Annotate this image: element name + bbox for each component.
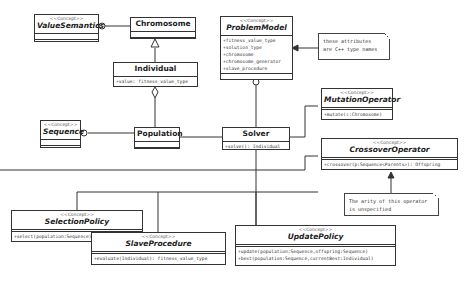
operations-section: +evaluate(Individual): fitness_value_typ… [92,253,225,263]
class-name: Solver [225,129,287,139]
operations-section [114,87,197,92]
operations-section [41,146,80,151]
class-name: MutationOperator [324,95,390,105]
class-name: Population [137,129,177,139]
class-sequence[interactable]: <<Concept>> Sequence [40,120,81,148]
operation-row: +crossover(p:Sequence<Parents>): Offspri… [324,161,455,168]
class-crossover-operator[interactable]: <<Concept>> CrossoverOperator +crossover… [321,138,458,170]
class-value-semantics[interactable]: <<Concept>> ValueSemantics [34,14,99,42]
operations-section [131,38,195,43]
note-arity[interactable]: The arity of this operator is unspecifie… [344,193,439,216]
attribute-row: +slave_procedure [223,65,290,72]
note-arrow-crossover [388,172,394,178]
operation-row: +solve(): Individual [225,143,287,150]
class-name: ValueSemantics [37,21,96,31]
attribute-row: +chromosome_generator [223,58,290,65]
attributes-section: +value: fitness_value_type [114,77,197,87]
operation-row: +mutate(c:Chromosome) [324,111,390,118]
note-line: these attributes [323,37,385,45]
class-problem-model[interactable]: <<Concept>> ProblemModel +fitness_value_… [220,16,293,80]
connector-solver-mutation [290,106,318,137]
class-name: Sequence [43,127,78,137]
class-name: UpdatePolicy [238,232,393,242]
class-name: ProblemModel [223,23,290,33]
connector-solver-crossover [0,156,318,170]
connector-solver-selection [77,192,318,210]
operations-section [135,148,179,153]
note-line: are C++ type names [323,45,385,53]
class-update-policy[interactable]: <<Concept>> UpdatePolicy +update(populat… [235,225,396,266]
note-line: is unspecified [349,205,434,213]
class-solver[interactable]: Solver +solve(): Individual [222,127,290,150]
note-line: The arity of this operator [349,197,434,205]
class-individual[interactable]: Individual +value: fitness_value_type [113,62,198,87]
class-name: SelectionPolicy [14,217,140,227]
operations-section: +solve(): Individual [223,142,289,151]
class-population[interactable]: Population [134,127,180,149]
operation-row: +best(population:Sequence,currentBest:In… [238,255,393,262]
attribute-row: +fitness_value_type [223,37,290,44]
operations-section: +crossover(p:Sequence<Parents>): Offspri… [322,159,457,169]
class-name: Individual [116,64,195,74]
attribute-row: +chromosome [223,51,290,58]
operations-section [221,74,292,79]
class-name: CrossoverOperator [324,145,455,155]
attributes-section: +fitness_value_type +solution_type +chro… [221,36,292,74]
class-mutation-operator[interactable]: <<Concept>> MutationOperator +mutate(c:C… [321,88,393,120]
operation-row: +update(population:Sequence,offspring:Se… [238,248,393,255]
operations-section: +update(population:Sequence,offspring:Se… [236,246,395,263]
class-slave-procedure[interactable]: <<Concept>> SlaveProcedure +evaluate(Ind… [91,232,226,265]
attribute-value: +value: fitness_value_type [116,78,195,85]
operations-section: +mutate(c:Chromosome) [322,109,392,119]
class-chromosome[interactable]: Chromosome [130,17,196,39]
note-type-names[interactable]: these attributes are C++ type names [318,33,390,60]
operation-row: +evaluate(Individual): fitness_value_typ… [94,255,223,262]
attribute-row: +solution_type [223,44,290,51]
class-name: SlaveProcedure [94,239,223,249]
operations-section [35,40,98,45]
class-name: Chromosome [133,19,193,29]
